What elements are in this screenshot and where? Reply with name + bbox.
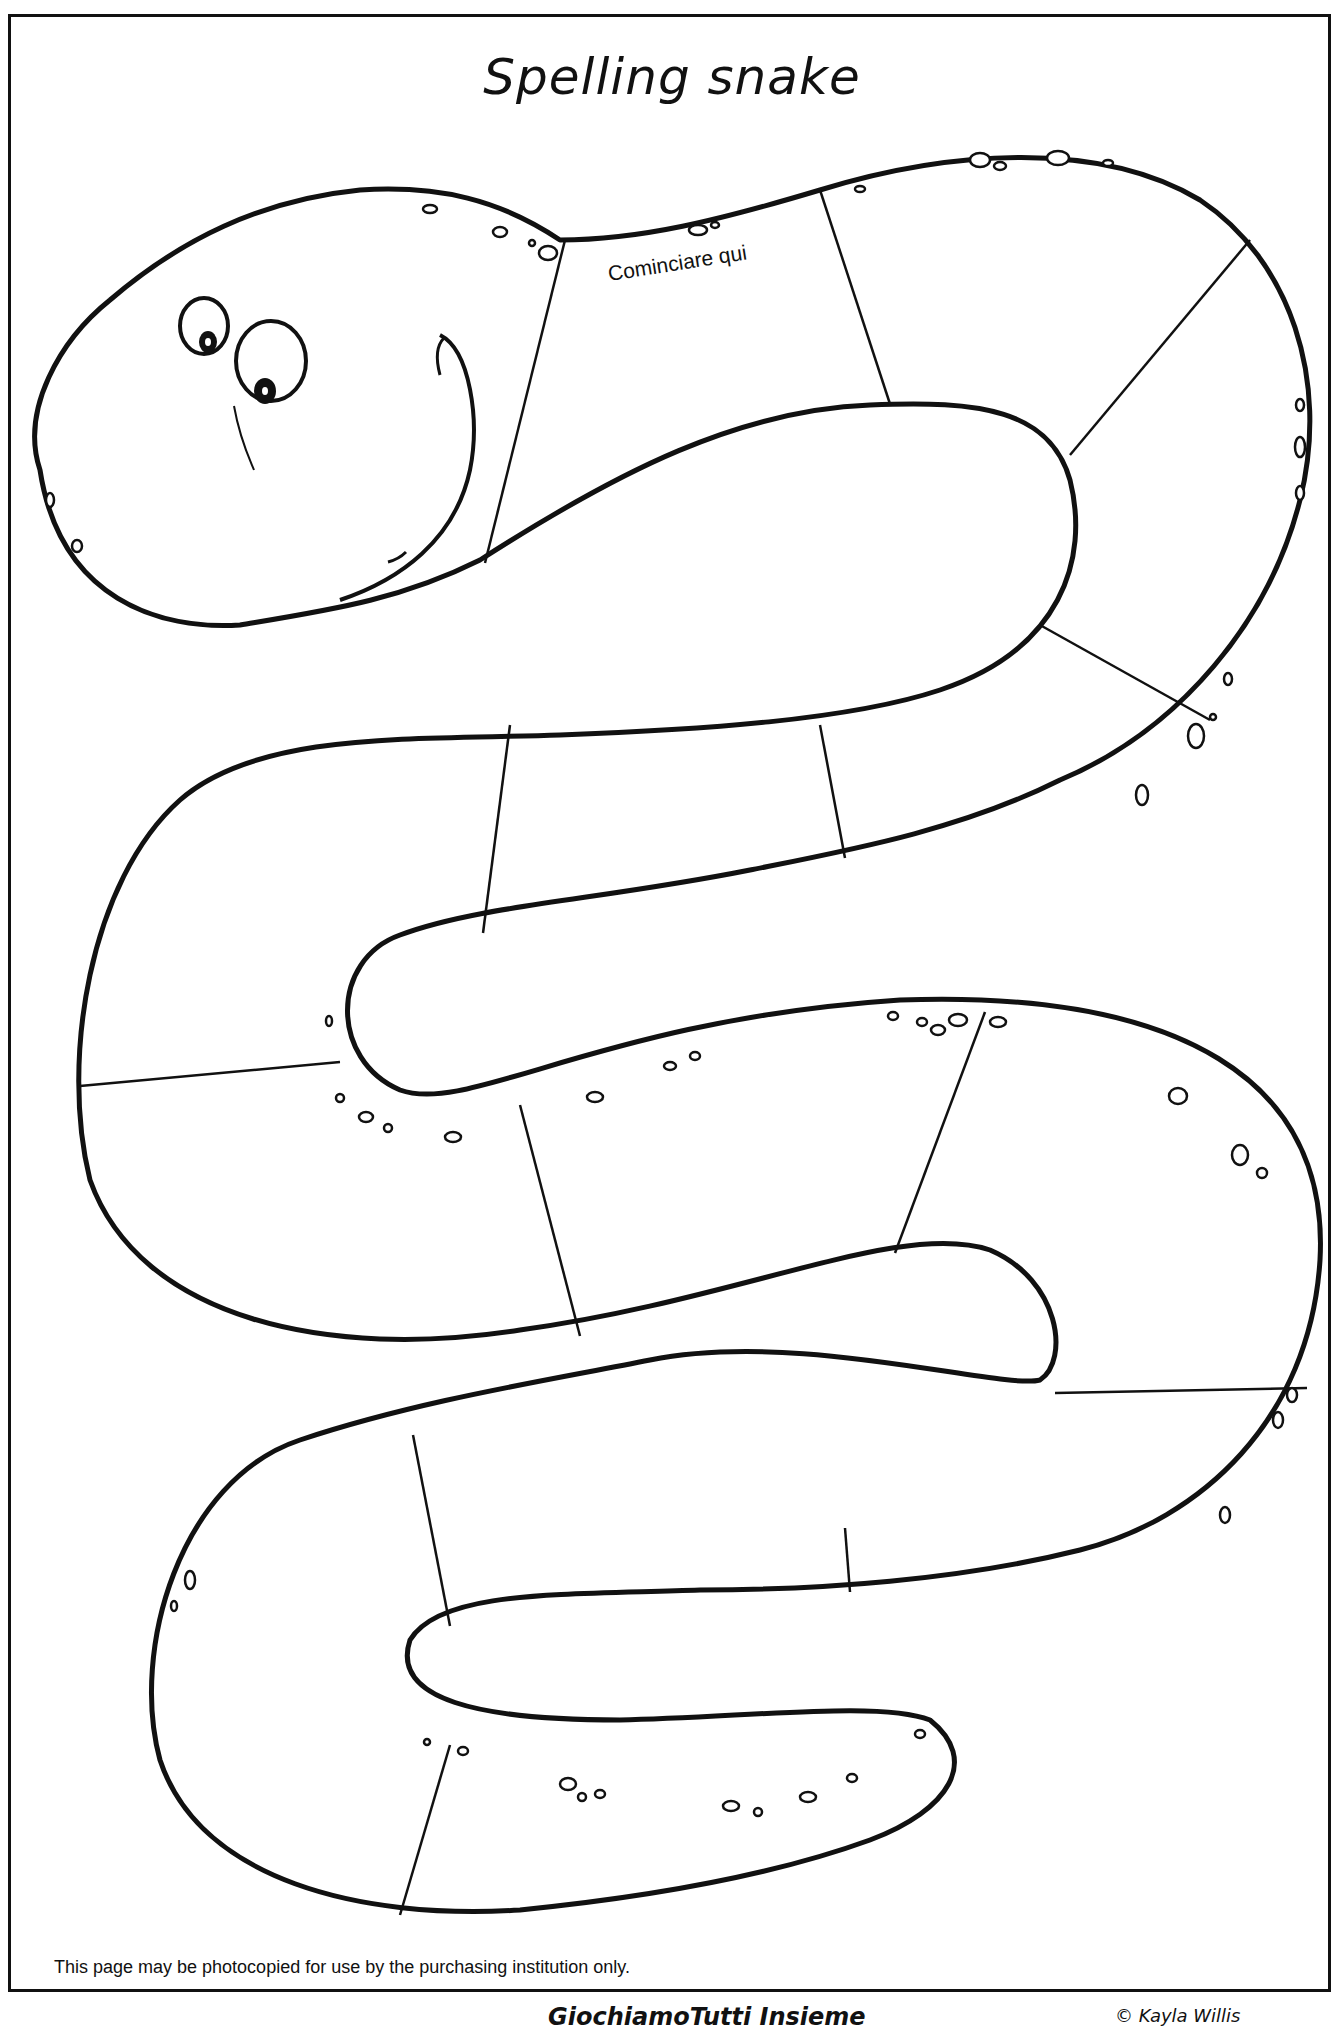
- photocopy-note: This page may be photocopied for use by …: [54, 1957, 630, 1978]
- footer-copyright: © Kayla Willis: [1115, 2005, 1241, 2026]
- footer-brand: GiochiamoTutti Insieme: [548, 2003, 866, 2030]
- snake-body-outline: [35, 158, 1321, 1912]
